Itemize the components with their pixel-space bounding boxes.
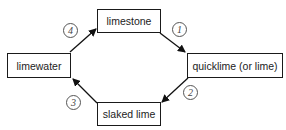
step-number-2: 2 [183, 85, 198, 100]
step-number-label: 3 [71, 97, 76, 108]
node-label: limewater [17, 60, 62, 72]
step-number-4: 4 [63, 23, 78, 38]
step-number-label: 1 [177, 24, 182, 35]
node-quicklime: quicklime (or lime) [187, 53, 283, 78]
node-label: limestone [107, 15, 152, 27]
node-limewater: limewater [7, 53, 71, 78]
step-number-label: 2 [188, 87, 193, 98]
step-number-1: 1 [172, 22, 187, 37]
step-number-label: 4 [68, 25, 73, 36]
step-number-3: 3 [66, 95, 81, 110]
node-slaked-lime: slaked lime [97, 102, 161, 126]
node-label: quicklime (or lime) [192, 60, 277, 72]
node-label: slaked lime [103, 108, 156, 120]
node-limestone: limestone [97, 9, 161, 33]
